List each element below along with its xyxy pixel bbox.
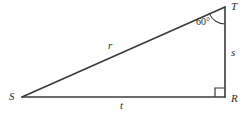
right-angle-marker-icon — [215, 88, 225, 97]
side-label-t: t — [120, 100, 123, 111]
angle-label-60-degrees: 60° — [196, 17, 210, 27]
vertex-label-S: S — [9, 91, 15, 102]
vertex-label-R: R — [231, 93, 238, 104]
side-r-hypotenuse-line — [22, 7, 225, 97]
side-label-s: s — [231, 47, 235, 58]
side-label-r: r — [108, 40, 112, 51]
vertex-label-T: T — [231, 1, 237, 12]
angle-arc-icon — [210, 14, 226, 24]
geometry-figure: S R T r s t 60° — [0, 0, 244, 115]
